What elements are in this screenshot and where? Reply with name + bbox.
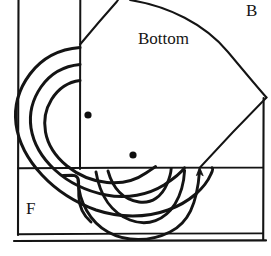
bottom-inner-horizontal-line xyxy=(18,233,263,234)
label-b: B xyxy=(246,2,257,19)
point-upper-marker xyxy=(84,111,91,118)
diagonal-line xyxy=(200,98,267,169)
nested-arcs-group xyxy=(16,48,213,217)
label-f: F xyxy=(26,200,35,217)
bottom-region-edge-left xyxy=(80,0,118,45)
arc-middle xyxy=(30,65,184,197)
diagram-drawing xyxy=(0,0,271,256)
marked-points-group xyxy=(84,111,136,158)
diagram-canvas: Bottom B F xyxy=(0,0,271,256)
point-lower-marker xyxy=(129,151,136,158)
bottom-region-outline xyxy=(80,0,267,98)
left-border-line xyxy=(18,0,19,235)
label-bottom: Bottom xyxy=(138,30,189,47)
